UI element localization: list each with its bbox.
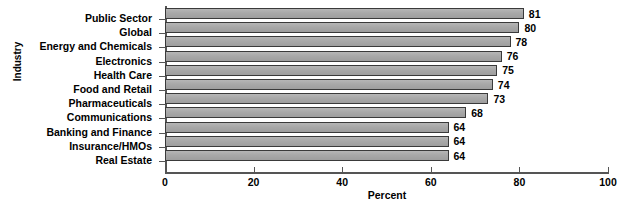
y-axis-tick	[159, 161, 165, 162]
x-axis-line	[165, 172, 609, 174]
y-axis-category-labels: Public SectorGlobalEnergy and ChemicalsE…	[0, 0, 160, 203]
y-axis-tick	[159, 133, 165, 134]
y-axis-tick-label: Real Estate	[95, 155, 152, 166]
bar	[165, 136, 449, 147]
bar-value-label: 75	[502, 65, 514, 76]
bar	[165, 107, 466, 118]
x-axis-tick-label: 80	[499, 176, 539, 188]
x-axis-tick	[431, 167, 432, 173]
y-axis-tick	[159, 19, 165, 20]
y-axis-tick-label: Pharmaceuticals	[69, 98, 152, 109]
x-axis-tick-label: 0	[145, 176, 185, 188]
bar-value-label: 81	[529, 9, 541, 20]
x-axis-tick-label: 40	[322, 176, 362, 188]
bar-value-label: 73	[493, 94, 505, 105]
x-axis-tick	[342, 167, 343, 173]
bar-value-label: 80	[524, 23, 536, 34]
bar	[165, 8, 524, 19]
bar-chart: Industry Public SectorGlobalEnergy and C…	[0, 0, 636, 203]
bar	[165, 79, 493, 90]
bar	[165, 51, 502, 62]
y-axis-tick-label: Banking and Finance	[46, 127, 152, 138]
y-axis-tick-label: Electronics	[95, 56, 152, 67]
bar-value-label: 76	[507, 51, 519, 62]
y-axis-tick	[159, 90, 165, 91]
bar-value-label: 64	[454, 151, 466, 162]
y-axis-tick	[159, 62, 165, 63]
bar-value-label: 78	[516, 37, 528, 48]
y-axis-tick	[159, 76, 165, 77]
bar-value-label: 74	[498, 80, 510, 91]
x-axis-tick	[608, 167, 609, 173]
x-axis-tick-label: 20	[234, 176, 274, 188]
y-axis-tick-label: Insurance/HMOs	[69, 141, 152, 152]
y-axis-tick	[159, 147, 165, 148]
y-axis-tick-label: Food and Retail	[73, 84, 152, 95]
x-axis-tick	[519, 167, 520, 173]
y-axis-tick-label: Communications	[67, 112, 152, 123]
y-axis-tick	[159, 104, 165, 105]
bar	[165, 65, 497, 76]
x-axis-tick-label: 60	[411, 176, 451, 188]
bar-value-label: 64	[454, 136, 466, 147]
bar-value-label: 68	[471, 108, 483, 119]
bar	[165, 36, 511, 47]
y-axis-tick-label: Public Sector	[85, 13, 152, 24]
bar	[165, 93, 488, 104]
x-axis-tick	[254, 167, 255, 173]
y-axis-tick	[159, 118, 165, 119]
y-axis-tick-label: Global	[119, 27, 152, 38]
bar	[165, 122, 449, 133]
bar-value-label: 64	[454, 122, 466, 133]
x-axis-title: Percent	[165, 189, 609, 201]
bar	[165, 150, 449, 161]
y-axis-tick	[159, 47, 165, 48]
bar	[165, 22, 519, 33]
y-axis-tick-label: Energy and Chemicals	[39, 41, 152, 52]
x-axis-tick-label: 100	[588, 176, 628, 188]
x-axis-tick	[165, 167, 166, 173]
y-axis-tick-label: Health Care	[94, 70, 152, 81]
y-axis-tick	[159, 33, 165, 34]
